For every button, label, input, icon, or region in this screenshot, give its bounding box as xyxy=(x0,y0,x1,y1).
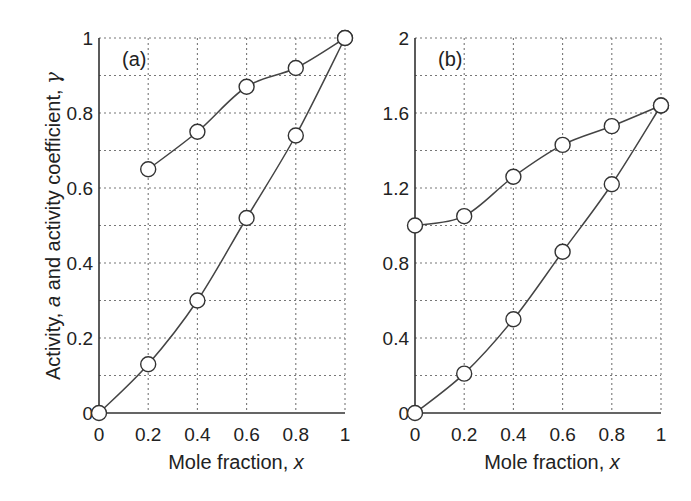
data-point-marker xyxy=(604,119,619,134)
y-tick-label: 1.2 xyxy=(383,178,409,199)
data-point-marker xyxy=(654,98,669,113)
x-tick-label: 1 xyxy=(656,424,667,445)
y-label-symbol-gamma: γ xyxy=(41,72,65,84)
grid xyxy=(99,38,345,413)
data-point-marker xyxy=(92,406,107,421)
data-point-marker xyxy=(338,31,353,46)
chart-panel-b: 00.20.40.60.8100.40.81.21.62Mole fractio… xyxy=(383,28,669,473)
y-tick-label: 0.2 xyxy=(67,328,93,349)
x-tick-label: 0.2 xyxy=(135,424,161,445)
data-point-marker xyxy=(555,244,570,259)
data-point-marker xyxy=(141,357,156,372)
y-tick-label: 0.6 xyxy=(67,178,93,199)
x-tick-label: 0.6 xyxy=(233,424,259,445)
chart-panel-a: 00.20.40.60.8100.20.40.60.81Mole fractio… xyxy=(67,28,353,473)
x-tick-label: 0.4 xyxy=(500,424,527,445)
data-point-marker xyxy=(506,169,521,184)
y-tick-label: 0.4 xyxy=(67,253,94,274)
figure: Activity, a and activity coefficient, γ … xyxy=(0,0,691,501)
y-tick-label: 0.4 xyxy=(383,328,410,349)
y-label-text-2: and activity coefficient, xyxy=(42,84,64,296)
x-axis-label: Mole fraction, x xyxy=(168,451,305,473)
x-tick-label: 0.2 xyxy=(451,424,477,445)
panel-label: (a) xyxy=(122,48,146,70)
data-point-marker xyxy=(604,177,619,192)
x-tick-label: 0 xyxy=(410,424,421,445)
data-point-marker xyxy=(288,61,303,76)
data-point-marker xyxy=(408,406,423,421)
x-axis-label: Mole fraction, x xyxy=(484,451,621,473)
data-point-marker xyxy=(190,293,205,308)
series-activity xyxy=(408,98,669,421)
data-point-marker xyxy=(457,209,472,224)
x-tick-label: 1 xyxy=(340,424,351,445)
data-point-marker xyxy=(288,128,303,143)
y-tick-label: 1.6 xyxy=(383,103,409,124)
data-point-marker xyxy=(408,218,423,233)
x-tick-label: 0.6 xyxy=(549,424,575,445)
data-point-marker xyxy=(239,211,254,226)
panel-label: (b) xyxy=(438,48,462,70)
y-tick-label: 2 xyxy=(398,28,409,49)
grid xyxy=(415,38,661,413)
data-point-marker xyxy=(457,366,472,381)
data-point-marker xyxy=(555,137,570,152)
x-tick-label: 0 xyxy=(94,424,105,445)
x-tick-label: 0.8 xyxy=(599,424,625,445)
y-label-text-1: Activity, xyxy=(42,307,64,380)
data-point-marker xyxy=(141,162,156,177)
x-tick-label: 0.8 xyxy=(283,424,309,445)
y-label-symbol-a: a xyxy=(42,296,64,307)
x-tick-label: 0.4 xyxy=(184,424,211,445)
data-point-marker xyxy=(190,124,205,139)
y-tick-label: 0.8 xyxy=(383,253,409,274)
data-point-marker xyxy=(506,312,521,327)
series-line xyxy=(415,106,661,414)
y-tick-label: 0.8 xyxy=(67,103,93,124)
series-activity-coefficient xyxy=(408,98,669,233)
data-point-marker xyxy=(239,79,254,94)
y-axis-label: Activity, a and activity coefficient, γ xyxy=(41,72,65,380)
y-tick-label: 1 xyxy=(82,28,93,49)
